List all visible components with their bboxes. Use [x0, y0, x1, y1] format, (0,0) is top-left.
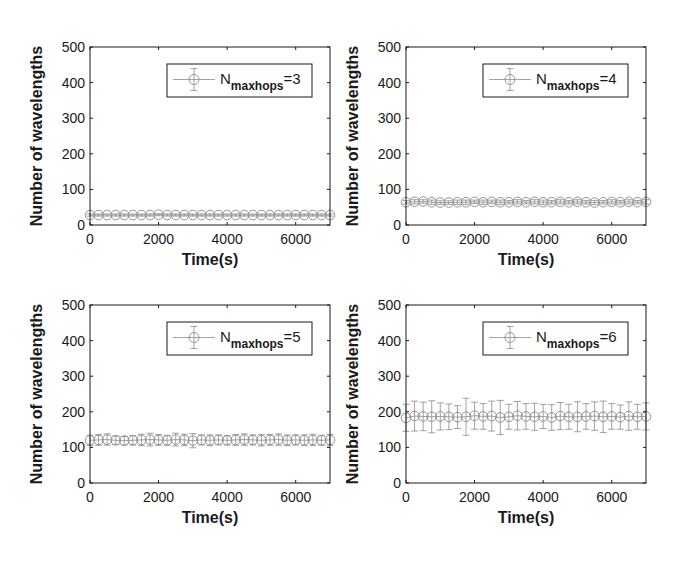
- figure: 01002003004005000200040006000Time(s)Numb…: [0, 0, 675, 566]
- y-tick-label: 300: [378, 110, 402, 126]
- y-tick-label: 500: [378, 39, 402, 55]
- y-tick-label: 400: [378, 333, 402, 349]
- y-tick-label: 400: [378, 75, 402, 91]
- x-tick-label: 2000: [143, 489, 174, 505]
- y-tick-label: 0: [77, 475, 85, 491]
- figure-canvas: 01002003004005000200040006000Time(s)Numb…: [0, 0, 675, 566]
- y-axis-label: Number of wavelengths: [344, 46, 361, 227]
- data-series: [401, 398, 651, 435]
- y-tick-label: 200: [62, 146, 86, 162]
- y-axis-label: Number of wavelengths: [28, 46, 45, 227]
- x-tick-label: 4000: [528, 489, 559, 505]
- y-tick-label: 500: [62, 39, 86, 55]
- x-tick-label: 4000: [528, 231, 559, 247]
- x-tick-label: 2000: [143, 231, 174, 247]
- x-tick-label: 2000: [459, 489, 490, 505]
- y-tick-label: 100: [378, 181, 402, 197]
- legend: Nmaxhops=6: [483, 322, 628, 355]
- y-axis-label: Number of wavelengths: [344, 304, 361, 485]
- legend: Nmaxhops=3: [167, 64, 312, 97]
- x-tick-label: 6000: [280, 489, 311, 505]
- x-tick-label: 0: [402, 231, 410, 247]
- subplot-2: 01002003004005000200040006000Time(s)Numb…: [344, 39, 651, 268]
- subplot-4: 01002003004005000200040006000Time(s)Numb…: [344, 297, 651, 526]
- x-tick-label: 2000: [459, 231, 490, 247]
- y-tick-label: 0: [77, 217, 85, 233]
- x-tick-label: 4000: [212, 231, 243, 247]
- x-axis-label: Time(s): [498, 509, 555, 526]
- y-tick-label: 0: [393, 475, 401, 491]
- y-tick-label: 400: [62, 333, 86, 349]
- x-axis-label: Time(s): [182, 509, 239, 526]
- x-tick-label: 4000: [212, 489, 243, 505]
- y-tick-label: 300: [62, 368, 86, 384]
- y-tick-label: 500: [62, 297, 86, 313]
- legend: Nmaxhops=4: [483, 64, 628, 97]
- x-tick-label: 6000: [596, 231, 627, 247]
- x-axis-label: Time(s): [182, 251, 239, 268]
- x-tick-label: 0: [86, 489, 94, 505]
- y-tick-label: 300: [378, 368, 402, 384]
- x-axis-label: Time(s): [498, 251, 555, 268]
- x-tick-label: 0: [86, 231, 94, 247]
- data-series: [85, 210, 335, 220]
- legend: Nmaxhops=5: [167, 322, 312, 355]
- y-tick-label: 300: [62, 110, 86, 126]
- y-tick-label: 100: [62, 181, 86, 197]
- y-tick-label: 400: [62, 75, 86, 91]
- y-tick-label: 100: [378, 439, 402, 455]
- y-tick-label: 500: [378, 297, 402, 313]
- y-tick-label: 200: [378, 404, 402, 420]
- subplot-3: 01002003004005000200040006000Time(s)Numb…: [28, 297, 335, 526]
- data-series: [401, 197, 651, 208]
- data-series: [85, 433, 335, 448]
- x-tick-label: 6000: [596, 489, 627, 505]
- y-tick-label: 100: [62, 439, 86, 455]
- x-tick-label: 6000: [280, 231, 311, 247]
- errorbar-point: [547, 405, 557, 431]
- x-tick-label: 0: [402, 489, 410, 505]
- y-axis-label: Number of wavelengths: [28, 304, 45, 485]
- y-tick-label: 0: [393, 217, 401, 233]
- y-tick-label: 200: [378, 146, 402, 162]
- subplot-1: 01002003004005000200040006000Time(s)Numb…: [28, 39, 335, 268]
- y-tick-label: 200: [62, 404, 86, 420]
